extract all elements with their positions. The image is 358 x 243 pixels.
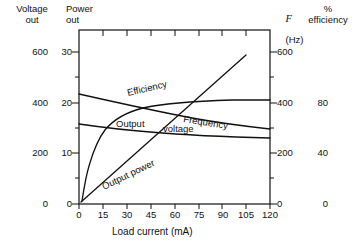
series-label-output-power: Output power xyxy=(100,157,156,192)
series-label-output-voltage: Outputvoltage xyxy=(116,118,194,134)
series-label-efficiency: Efficiency xyxy=(126,78,168,98)
plot-canvas: Efficiency Frequency Outputvoltage Outpu… xyxy=(0,0,358,243)
chart-figure: Voltageout Powerout F (Hz) %efficiency 6… xyxy=(0,0,358,243)
right-ticks xyxy=(270,52,277,204)
left-ticks xyxy=(72,52,79,204)
bottom-ticks xyxy=(79,204,270,209)
top-ticks xyxy=(103,30,246,36)
